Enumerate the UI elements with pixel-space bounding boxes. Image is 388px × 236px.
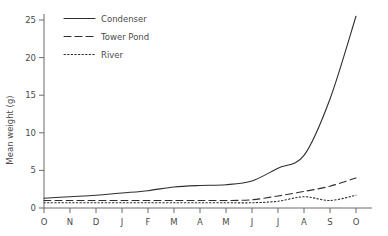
x-tick-label: M [222,217,229,227]
series-line-condenser [44,16,356,198]
y-axis-title: Mean weight (g) [5,95,15,164]
legend-label-condenser: Condenser [101,14,147,24]
line-chart: 0 5 10 15 20 25 Mean weight (g) ONDJFMAM… [0,0,388,236]
x-tick-label: A [301,217,307,227]
series-line-river [44,195,356,203]
x-tick-label: F [146,217,151,227]
x-tick-label: N [67,217,73,227]
y-tick-label: 0 [31,203,36,213]
x-tick-label: J [120,217,124,227]
x-tick-label: S [327,217,332,227]
chart-legend: Condenser Tower Pond River [64,14,149,60]
x-tick-label: J [276,217,280,227]
y-tick-label: 5 [31,165,36,175]
y-tick-label: 10 [25,128,36,138]
y-tick-label: 20 [25,53,36,63]
legend-label-river: River [101,50,124,60]
y-tick-label: 25 [25,15,36,25]
series-line-tower-pond [44,178,356,201]
x-tick-label: J [250,217,254,227]
y-tick-label: 15 [25,90,36,100]
legend-label-tower-pond: Tower Pond [100,32,149,42]
x-tick-label: A [197,217,203,227]
x-tick-label: M [170,217,177,227]
x-tick-label: O [41,217,48,227]
chart-container: 0 5 10 15 20 25 Mean weight (g) ONDJFMAM… [0,0,388,236]
y-axis-ticks: 0 5 10 15 20 25 [25,15,44,213]
x-axis-ticks [44,208,356,213]
x-axis-labels: ONDJFMAMJJASO [41,217,360,227]
x-tick-label: D [93,217,100,227]
x-tick-label: O [353,217,360,227]
